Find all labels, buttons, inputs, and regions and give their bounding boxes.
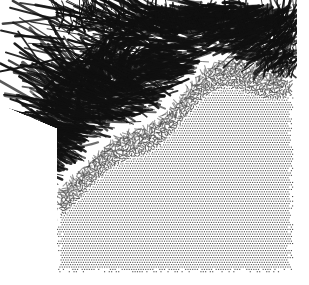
particle-trajectory-figure [0, 0, 309, 285]
figure-root: Monochrome stippled scientific figure: a… [0, 0, 309, 285]
